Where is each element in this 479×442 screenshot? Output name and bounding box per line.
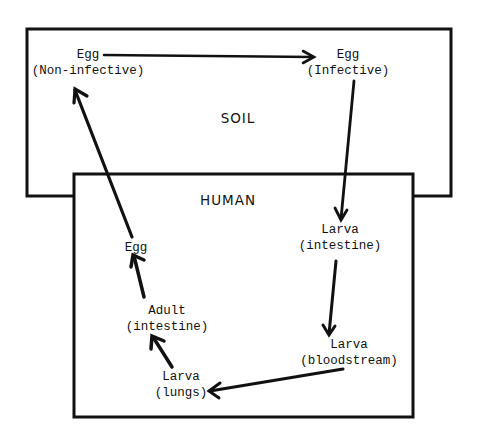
node-subtitle: (lungs) xyxy=(155,385,208,401)
arrow-egg-to-noninfective xyxy=(74,89,132,237)
node-title: Egg xyxy=(307,47,390,63)
human-label: HUMAN xyxy=(200,192,256,208)
node-egg-noninfective: Egg (Non-infective) xyxy=(32,47,145,79)
soil-label: SOIL xyxy=(221,110,256,126)
node-title: Adult xyxy=(126,303,209,319)
arrow-infective-to-larva-intestine xyxy=(335,81,354,220)
node-larva-bloodstream: Larva (bloodstream) xyxy=(300,337,398,369)
node-subtitle: (Non-infective) xyxy=(32,63,145,79)
node-title: Egg xyxy=(32,47,145,63)
node-egg-infective: Egg (Infective) xyxy=(307,47,390,79)
node-egg-human: Egg xyxy=(125,240,148,256)
node-title: Larva xyxy=(299,222,382,238)
arrow-larva-intestine-to-bloodstream xyxy=(323,261,336,335)
node-subtitle: (Infective) xyxy=(307,63,390,79)
arrow-bloodstream-to-lungs xyxy=(209,369,343,398)
node-subtitle: (intestine) xyxy=(299,238,382,254)
arrow-adult-to-egg xyxy=(131,255,144,297)
node-title: Larva xyxy=(300,337,398,353)
arrow-lungs-to-adult xyxy=(151,336,172,367)
node-adult-intestine: Adult (intestine) xyxy=(126,303,209,335)
node-subtitle: (bloodstream) xyxy=(300,353,398,369)
life-cycle-diagram: SOIL HUMAN Egg (Non-infective) Egg (Infe… xyxy=(0,0,479,442)
node-subtitle: (intestine) xyxy=(126,319,209,335)
human-box xyxy=(74,174,413,417)
node-larva-intestine: Larva (intestine) xyxy=(299,222,382,254)
node-title: Larva xyxy=(155,369,208,385)
node-title: Egg xyxy=(125,240,148,256)
node-larva-lungs: Larva (lungs) xyxy=(155,369,208,401)
